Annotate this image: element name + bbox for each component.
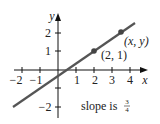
slope-denominator: 4 bbox=[125, 106, 129, 114]
y-tick-label: 1 bbox=[45, 44, 51, 58]
x-tick-label: −2 bbox=[10, 73, 23, 87]
x-tick-label: −1 bbox=[30, 73, 43, 87]
point-label-2-1: (2, 1) bbox=[101, 48, 127, 62]
slope-numerator: 3 bbox=[125, 98, 129, 106]
point-x-y bbox=[118, 29, 124, 35]
y-axis-arrow-icon bbox=[55, 13, 61, 21]
x-tick-label: 4 bbox=[127, 73, 133, 87]
point-2-1 bbox=[91, 48, 97, 54]
y-axis-label: y bbox=[48, 9, 55, 23]
x-tick-label: 3 bbox=[109, 73, 115, 87]
x-tick-label: 2 bbox=[92, 73, 98, 87]
x-tick-label: 1 bbox=[74, 73, 80, 87]
slope-annotation: slope is bbox=[81, 99, 118, 113]
y-tick-label: −2 bbox=[39, 100, 52, 114]
y-tick-label: 2 bbox=[45, 26, 51, 40]
graph-line bbox=[13, 23, 135, 107]
x-axis-label: x bbox=[141, 73, 148, 87]
graph: −2 −1 1 2 3 4 x 2 1 −2 y (2, 1) (x, y) s… bbox=[0, 0, 160, 124]
point-label-x-y: (x, y) bbox=[124, 34, 149, 48]
